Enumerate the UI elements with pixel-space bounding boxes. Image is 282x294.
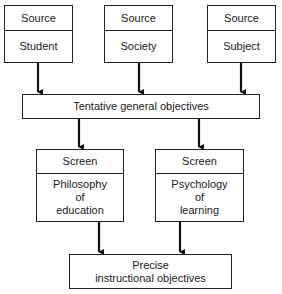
precise-objectives-box: Precise instructional objectives <box>69 254 232 289</box>
screen-philosophy-label: Philosophy of education <box>37 174 123 221</box>
source-society-label: Society <box>105 31 172 62</box>
screen-psychology-label: Psychology of learning <box>156 174 243 221</box>
source-society-header: Source <box>105 6 172 31</box>
source-student-box: Source Student <box>4 5 73 63</box>
precise-objectives-label: Precise instructional objectives <box>95 259 206 285</box>
source-subject-header: Source <box>208 6 275 31</box>
source-student-label: Student <box>5 31 72 62</box>
source-subject-box: Source Subject <box>207 5 276 63</box>
source-student-header: Source <box>5 6 72 31</box>
screen-psychology-box: Screen Psychology of learning <box>155 149 244 222</box>
tentative-objectives-label: Tentative general objectives <box>73 100 209 113</box>
source-society-box: Source Society <box>104 5 173 63</box>
screen-philosophy-box: Screen Philosophy of education <box>36 149 124 222</box>
screen-psychology-header: Screen <box>156 150 243 174</box>
tentative-objectives-box: Tentative general objectives <box>22 94 260 119</box>
source-subject-label: Subject <box>208 31 275 62</box>
screen-philosophy-header: Screen <box>37 150 123 174</box>
